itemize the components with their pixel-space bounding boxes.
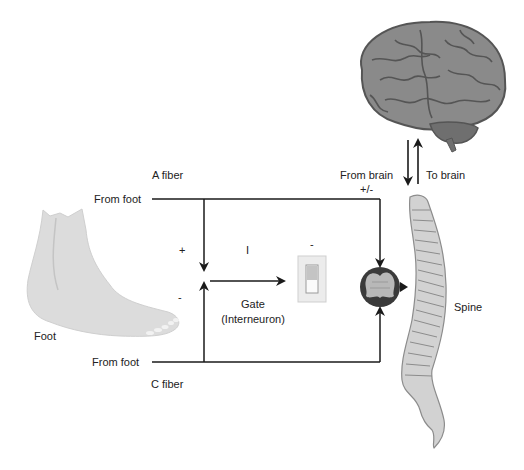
foot-icon (27, 209, 179, 336)
c-fiber-label: C fiber (151, 378, 183, 391)
spine-label: Spine (454, 301, 482, 314)
gate-interneuron-label: (Interneuron) (212, 313, 294, 326)
brain-signal-label: +/- (360, 183, 373, 196)
foot-label: Foot (34, 330, 56, 343)
inhibitory-label: I (246, 244, 249, 257)
a-fiber-label: A fiber (152, 169, 183, 182)
gate-label: Gate (212, 298, 294, 311)
from-brain-label: From brain (340, 169, 393, 182)
diagram-graphics (0, 0, 524, 470)
from-foot-top-label: From foot (94, 193, 141, 206)
switch-icon (298, 256, 326, 302)
from-foot-bottom-label: From foot (92, 356, 139, 369)
plus-sign-label: + (179, 244, 185, 257)
neuron-circle-icon (360, 267, 408, 307)
minus-sign-label: - (178, 291, 182, 304)
gate-minus-label: - (310, 238, 314, 251)
brain-icon (361, 22, 505, 152)
spine-icon (402, 195, 446, 448)
diagram-canvas: A fiber From foot + - I - Gate (Interneu… (0, 0, 524, 470)
to-brain-label: To brain (426, 169, 465, 182)
